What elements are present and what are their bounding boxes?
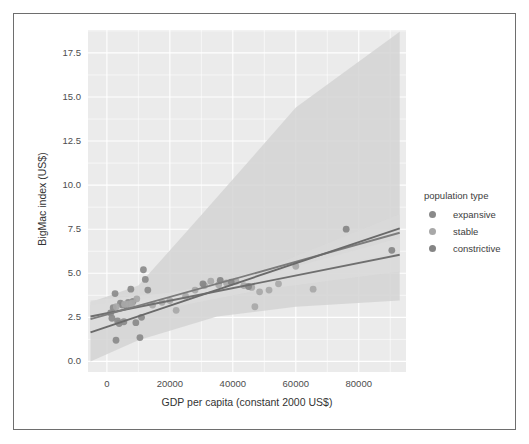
x-axis-title: GDP per capita (constant 2000 US$) <box>28 396 466 408</box>
x-tick-label: 60000 <box>266 378 326 389</box>
legend-item-label: constrictive <box>453 243 501 254</box>
y-tick-label: 17.5 <box>63 47 82 58</box>
data-point <box>388 247 395 254</box>
legend-item-label: stable <box>453 226 478 237</box>
data-point <box>343 226 350 233</box>
x-tick-label: 20000 <box>140 378 200 389</box>
chart-figure: BigMac index (US$) GDP per capita (const… <box>0 0 529 444</box>
y-tick-label: 10.0 <box>63 179 82 190</box>
data-point <box>133 295 140 302</box>
data-point <box>275 280 282 287</box>
data-point <box>132 319 139 326</box>
data-point <box>113 303 120 310</box>
y-tick-label: 12.5 <box>63 135 82 146</box>
legend: population type expansive stable constri… <box>424 190 524 257</box>
y-tick-label: 7.5 <box>68 223 81 234</box>
data-point <box>207 278 214 285</box>
data-point <box>142 276 149 283</box>
y-tick-label: 15.0 <box>63 91 82 102</box>
data-point <box>266 287 273 294</box>
data-point <box>127 286 134 293</box>
data-point <box>144 287 151 294</box>
legend-swatch-circle-icon <box>424 240 441 257</box>
legend-swatch-circle-icon <box>424 223 441 240</box>
legend-title: population type <box>424 190 524 201</box>
x-tick-label: 80000 <box>329 378 389 389</box>
legend-item-constrictive[interactable]: constrictive <box>424 240 524 257</box>
data-point <box>310 286 317 293</box>
legend-swatch-circle-icon <box>424 206 441 223</box>
data-point <box>112 290 119 297</box>
y-axis-title: BigMac index (US$) <box>36 139 48 259</box>
y-tick-label: 2.5 <box>68 311 81 322</box>
data-point <box>113 337 120 344</box>
data-point <box>140 266 147 273</box>
data-point <box>137 334 144 341</box>
data-point <box>251 303 258 310</box>
y-tick-label: 0.0 <box>68 355 81 366</box>
legend-item-stable[interactable]: stable <box>424 223 524 240</box>
data-point <box>256 288 263 295</box>
legend-item-label: expansive <box>453 209 496 220</box>
data-point <box>173 307 180 314</box>
x-tick-label: 0 <box>77 378 137 389</box>
y-tick-label: 5.0 <box>68 267 81 278</box>
x-tick-label: 40000 <box>203 378 263 389</box>
legend-item-expansive[interactable]: expansive <box>424 206 524 223</box>
